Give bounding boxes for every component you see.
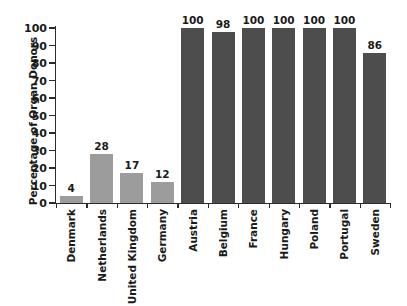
bar-group[interactable]: 4 [60,28,83,203]
bar-value-label: 12 [141,168,184,180]
x-axis-label: Belgium [217,209,229,257]
bar-group[interactable]: 100 [303,28,326,203]
x-tick-mark [117,203,118,208]
y-tick-mark [49,45,55,46]
bar-group[interactable]: 98 [212,28,235,203]
x-tick-mark [360,203,361,208]
y-tick-mark [49,150,55,151]
y-tick-mark [49,115,55,116]
x-axis-label: Poland [308,209,320,250]
bar-value-label: 28 [80,140,123,152]
y-tick-label: 90 [1,39,47,52]
y-tick-label: 80 [1,57,47,70]
x-axis-label: France [247,209,259,249]
y-tick-label: 20 [1,162,47,175]
x-tick-mark [86,203,87,208]
x-axis-label: Netherlands [96,209,108,282]
bar-chart: Percentage of Organ Donors 0102030405060… [0,0,407,306]
bar-group[interactable]: 28 [90,28,113,203]
x-tick-mark [208,203,209,208]
bar-value-label: 100 [323,14,366,26]
bar[interactable] [272,28,295,203]
y-tick-mark [49,27,55,28]
x-axis-label: Austria [187,209,199,252]
bar-value-label: 4 [50,182,93,194]
plot-area: 42817121009810010010010086 [56,28,390,203]
x-tick-mark [390,203,391,208]
bar-group[interactable]: 100 [242,28,265,203]
bar-group[interactable]: 86 [363,28,386,203]
y-tick-mark [49,167,55,168]
x-axis-label: Sweden [369,209,381,256]
bar-group[interactable]: 100 [272,28,295,203]
bar[interactable] [151,182,174,203]
bar[interactable] [363,53,386,204]
bar[interactable] [242,28,265,203]
x-axis-label: Hungary [278,209,290,259]
x-axis-label: Denmark [65,209,77,263]
x-tick-mark [299,203,300,208]
x-tick-mark [329,203,330,208]
y-tick-label: 10 [1,179,47,192]
y-tick-label: 60 [1,92,47,105]
bar-value-label: 86 [353,39,396,51]
x-axis-label: Portugal [338,209,350,260]
x-tick-mark [238,203,239,208]
bar[interactable] [333,28,356,203]
bar[interactable] [60,196,83,203]
bar-group[interactable]: 100 [333,28,356,203]
y-tick-label: 0 [1,197,47,210]
y-tick-mark [49,62,55,63]
bar[interactable] [181,28,204,203]
x-tick-mark [56,203,57,208]
y-tick-mark [49,132,55,133]
x-tick-mark [147,203,148,208]
y-tick-label: 50 [1,109,47,122]
x-tick-mark [269,203,270,208]
x-axis-label: Germany [156,209,168,262]
y-tick-mark [49,80,55,81]
y-tick-label: 40 [1,127,47,140]
y-tick-label: 100 [1,22,47,35]
y-tick-mark [49,202,55,203]
x-tick-mark [177,203,178,208]
x-axis-label: United Kingdom [126,209,138,304]
bar-group[interactable]: 100 [181,28,204,203]
bar-group[interactable]: 12 [151,28,174,203]
bar[interactable] [303,28,326,203]
y-tick-mark [49,97,55,98]
y-tick-label: 30 [1,144,47,157]
y-tick-label: 70 [1,74,47,87]
bar[interactable] [212,32,235,204]
